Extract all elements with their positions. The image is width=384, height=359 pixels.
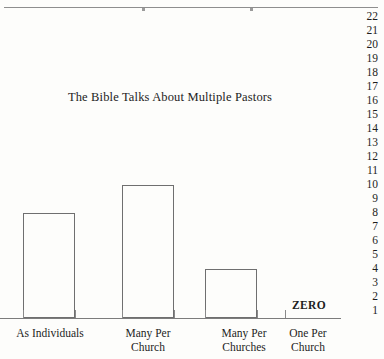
y-tick-label: 17	[348, 81, 378, 93]
y-tick-label: 3	[348, 277, 378, 289]
bar	[122, 185, 174, 318]
y-tick-label: 16	[348, 95, 378, 107]
bar	[23, 213, 75, 318]
axis-tick	[75, 310, 76, 318]
y-tick-label: 10	[348, 179, 378, 191]
axis-tick	[23, 310, 24, 318]
y-tick-label: 22	[348, 11, 378, 23]
bar-chart: The Bible Talks About Multiple Pastors Z…	[0, 0, 384, 359]
y-tick-label: 8	[348, 207, 378, 219]
x-tick-label: As Individuals	[2, 326, 98, 340]
y-tick-label: 19	[348, 53, 378, 65]
y-tick-label: 2	[348, 291, 378, 303]
y-tick-label: 9	[348, 193, 378, 205]
y-tick-label: 5	[348, 249, 378, 261]
axis-tick	[285, 310, 286, 318]
y-axis-labels: 22212019181716151413121110987654321	[348, 0, 378, 330]
y-tick-label: 1	[348, 305, 378, 317]
y-tick-label: 11	[348, 165, 378, 177]
y-tick-label: 15	[348, 109, 378, 121]
x-axis-line	[0, 318, 341, 319]
zero-value-label: ZERO	[283, 299, 335, 311]
y-tick-label: 4	[348, 263, 378, 275]
y-tick-label: 18	[348, 67, 378, 79]
x-tick-label: One Per Church	[268, 326, 348, 354]
y-tick-label: 7	[348, 221, 378, 233]
x-tick-label: Many Per Church	[100, 326, 196, 354]
axis-tick	[174, 310, 175, 318]
bar	[205, 269, 257, 318]
y-tick-label: 13	[348, 137, 378, 149]
y-tick-label: 12	[348, 151, 378, 163]
axis-tick	[122, 310, 123, 318]
plot-area: The Bible Talks About Multiple Pastors Z…	[0, 0, 340, 318]
y-tick-label: 20	[348, 39, 378, 51]
y-tick-label: 6	[348, 235, 378, 247]
y-tick-label: 14	[348, 123, 378, 135]
y-tick-label: 21	[348, 25, 378, 37]
axis-tick	[205, 310, 206, 318]
axis-tick	[257, 310, 258, 318]
chart-title: The Bible Talks About Multiple Pastors	[0, 90, 340, 105]
